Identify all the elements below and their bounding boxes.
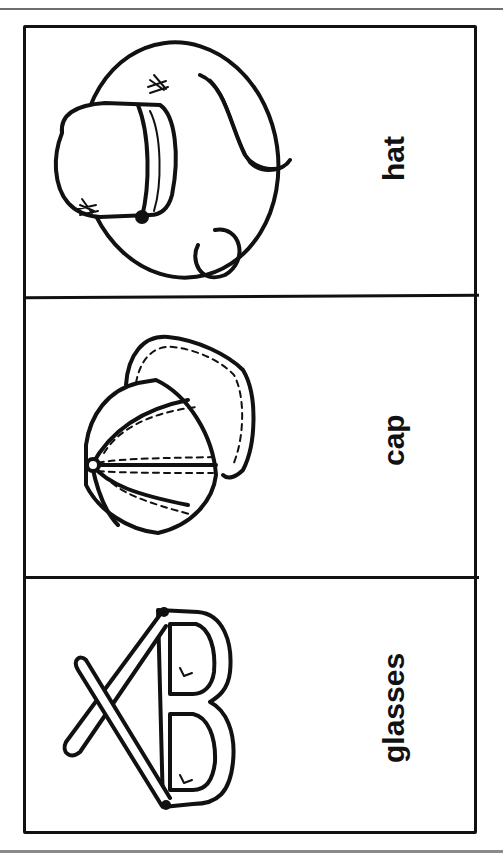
glasses-icon <box>58 602 248 817</box>
label-cap: cap <box>377 414 411 466</box>
cap-icon <box>78 325 268 535</box>
top-rule <box>0 8 503 10</box>
label-glasses: glasses <box>377 653 411 763</box>
hat-icon <box>50 45 270 285</box>
label-hat: hat <box>377 136 411 181</box>
bottom-rule <box>0 850 503 853</box>
